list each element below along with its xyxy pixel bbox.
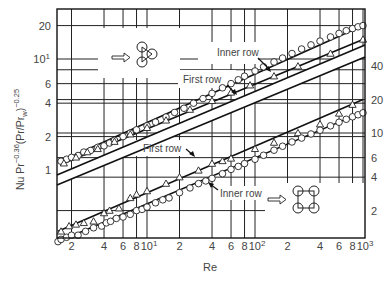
circle-marker <box>289 139 296 146</box>
circle-marker <box>176 189 183 196</box>
circle-marker <box>252 156 259 163</box>
triangle-marker <box>219 157 226 163</box>
x-tick-label: 8 <box>241 240 247 252</box>
circle-marker <box>127 211 134 218</box>
circle-marker <box>336 30 343 37</box>
circle-marker <box>308 42 315 49</box>
triangle-marker <box>349 101 356 107</box>
circle-marker <box>336 119 343 126</box>
x-tick-label: 2 <box>68 240 74 252</box>
circle-marker <box>228 166 235 173</box>
right-tick-label: 20 <box>371 94 383 106</box>
circle-marker <box>219 85 226 92</box>
circle-marker <box>298 135 305 142</box>
circle-marker <box>317 127 324 134</box>
circle-marker <box>152 119 159 126</box>
right-tick-label: 2 <box>371 205 377 217</box>
circle-marker <box>166 195 173 202</box>
x-tick-label: 4 <box>317 240 323 252</box>
circle-marker <box>260 152 267 159</box>
circle-marker <box>90 224 97 231</box>
circle-marker <box>159 197 166 204</box>
circle-marker <box>133 127 140 134</box>
ylabel-exponent-1: −0.36 <box>12 144 21 163</box>
triangle-marker <box>80 219 87 225</box>
circle-marker <box>327 34 334 41</box>
circle-marker <box>144 204 151 211</box>
annotation-lower-first-row: First row <box>143 143 182 154</box>
x-axis-label: Re <box>203 261 217 273</box>
circle-marker <box>152 200 159 207</box>
triangle-marker <box>133 191 140 197</box>
circle-marker <box>209 90 216 97</box>
triangle-marker <box>251 145 258 151</box>
nusselt-correlation-chart: Inner rowFirst rowFirst rowInner row 201… <box>0 0 389 283</box>
annotation-upper-first-row: First row <box>183 74 222 85</box>
circle-marker <box>190 100 197 107</box>
x-tick-label: 4 <box>209 240 215 252</box>
circle-marker <box>195 180 202 187</box>
circle-marker <box>252 68 259 75</box>
left-tick-label: 4 <box>45 97 51 109</box>
triangle-marker <box>90 218 97 224</box>
x-tick-label: 101 <box>141 239 158 252</box>
circle-marker <box>308 131 315 138</box>
right-tick-label: 10 <box>371 127 383 139</box>
svg-text:Nu Pr−0.36(Pr/Prw)−0.25: Nu Pr−0.36(Pr/Prw)−0.25 <box>12 89 29 190</box>
left-tick-label: 2 <box>45 131 51 143</box>
circle-marker <box>209 175 216 182</box>
x-tick-label: 8 <box>133 240 139 252</box>
left-tick-label: 1 <box>45 164 51 176</box>
circle-marker <box>82 228 89 235</box>
x-tick-label: 102 <box>249 239 266 252</box>
x-tick-label: 103 <box>357 239 374 252</box>
left-tick-label: 20 <box>39 20 51 32</box>
circle-marker <box>317 38 324 45</box>
circle-marker <box>187 185 194 192</box>
circle-marker <box>271 147 278 154</box>
circle-marker <box>298 46 305 53</box>
triangle-marker <box>327 50 334 56</box>
triangle-marker <box>143 187 150 193</box>
x-tick-label: 2 <box>176 240 182 252</box>
right-tick-label: 6 <box>371 152 377 164</box>
x-tick-label: 6 <box>120 240 126 252</box>
x-tick-label: 4 <box>101 240 107 252</box>
circle-marker <box>181 105 188 112</box>
circle-marker <box>120 133 127 140</box>
left-tick-label: 6 <box>45 78 51 90</box>
right-tick-label: 4 <box>371 171 377 183</box>
ylabel-exponent-2: −0.25 <box>12 89 21 108</box>
left-tick-label: 101 <box>33 52 50 65</box>
circle-marker <box>120 214 127 221</box>
ylabel-ratio: (Pr/Pr <box>14 116 26 144</box>
x-tick-label: 6 <box>336 240 342 252</box>
lower-icon-box <box>265 183 365 238</box>
circle-marker <box>327 123 334 130</box>
circle-marker <box>219 170 226 177</box>
circle-marker <box>279 55 286 62</box>
circle-marker <box>200 95 207 102</box>
x-tick-label: 8 <box>349 240 355 252</box>
circle-marker <box>113 215 120 222</box>
annotation-lower-inner-row: Inner row <box>220 188 262 199</box>
circle-marker <box>289 50 296 57</box>
circle-marker <box>343 27 350 34</box>
circle-marker <box>171 109 178 116</box>
x-tick-label: 2 <box>284 240 290 252</box>
circle-marker <box>202 178 209 185</box>
x-tick-label: 6 <box>228 240 234 252</box>
circle-marker <box>241 73 248 80</box>
circle-marker <box>241 160 248 167</box>
triangle-marker <box>316 121 323 127</box>
y-axis-label: Nu Pr−0.36(Pr/Prw)−0.25 <box>12 89 29 190</box>
circle-marker <box>235 163 242 170</box>
circle-marker <box>279 143 286 150</box>
circle-marker <box>235 76 242 83</box>
annotation-upper-inner-row: Inner row <box>217 47 259 58</box>
ylabel-nu-pr: Nu Pr <box>14 163 26 190</box>
upper-icon-box <box>98 28 180 78</box>
arrow-head <box>208 182 214 188</box>
circle-marker <box>343 116 350 123</box>
circle-marker <box>271 59 278 66</box>
